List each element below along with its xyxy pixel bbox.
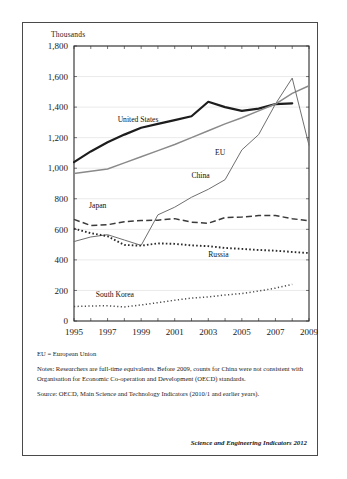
y-tick-label: 200 <box>55 286 69 296</box>
y-tick-label: 1,600 <box>48 72 69 82</box>
x-tick-label: 1999 <box>132 327 151 337</box>
y-tick-label: 0 <box>64 316 69 326</box>
y-tick-label: 1,000 <box>48 163 69 173</box>
chart-plot-area: 02004006008001,0001,2001,4001,6001,80019… <box>23 39 319 345</box>
line-chart: 02004006008001,0001,2001,4001,6001,80019… <box>23 39 319 345</box>
series-line-eu <box>74 86 309 174</box>
series-line-china <box>74 78 309 245</box>
y-tick-label: 1,800 <box>48 41 69 51</box>
x-tick-label: 2003 <box>199 327 218 337</box>
x-tick-label: 1995 <box>65 327 84 337</box>
series-label-united-states: United States <box>118 115 159 124</box>
series-line-russia <box>74 229 309 253</box>
x-tick-label: 1997 <box>99 327 118 337</box>
y-axis-units-label: Thousands <box>51 30 85 39</box>
series-label-eu: EU <box>215 148 226 157</box>
figure-notes: EU = European Union Notes: Researchers a… <box>37 349 305 404</box>
series-label-japan: Japan <box>89 201 106 210</box>
x-tick-label: 2001 <box>166 327 184 337</box>
series-label-china: China <box>192 171 211 180</box>
series-label-south-korea: South Korea <box>96 290 135 299</box>
note-methodology: Notes: Researchers are full-time equival… <box>37 364 305 385</box>
x-tick-label: 2005 <box>233 327 252 337</box>
figure-credit: Science and Engineering Indicators 2012 <box>191 439 307 446</box>
x-tick-label: 2009 <box>300 327 319 337</box>
series-line-japan <box>74 216 309 226</box>
note-source: Source: OECD, Main Science and Technolog… <box>37 389 305 400</box>
series-label-russia: Russia <box>208 250 229 259</box>
y-tick-label: 800 <box>55 194 69 204</box>
figure-panel: Thousands 02004006008001,0001,2001,4001,… <box>22 22 318 456</box>
x-tick-label: 2007 <box>266 327 285 337</box>
y-tick-label: 1,200 <box>48 133 69 143</box>
note-eu-definition: EU = European Union <box>37 349 305 360</box>
y-tick-label: 400 <box>55 255 69 265</box>
y-tick-label: 1,400 <box>48 102 69 112</box>
y-tick-label: 600 <box>55 225 69 235</box>
